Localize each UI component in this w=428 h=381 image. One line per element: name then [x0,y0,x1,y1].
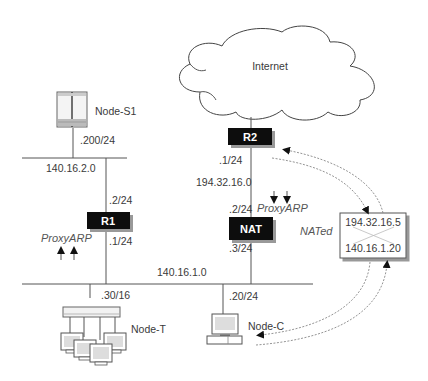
network-diagram: Internet Node-S1 .200/24 140.16.2.0 R2 .… [0,0,428,381]
network-label-194-32-16-0: 194.32.16.0 [196,176,252,188]
nat-lower-interface: .3/24 [229,242,253,254]
network-label-140-16-1-0: 140.16.1.0 [157,266,207,278]
router-nat-label: NAT [240,223,262,235]
r2-interface: .1/24 [219,154,243,166]
node-t-interface: .30/16 [101,289,130,301]
workgroup-icon [61,307,126,365]
internet-label: Internet [252,60,288,72]
nat-external-address: 194.32.16.5 [345,216,401,228]
node-s1-interface: .200/24 [80,134,115,146]
nat-internal-address: 140.16.1.20 [345,242,401,254]
nated-label: NATed [300,225,333,237]
server-icon [57,92,87,127]
r1-upper-interface: .2/24 [109,194,133,206]
nat-proxyarp-label: ProxyARP [257,202,308,214]
router-r1-label: R1 [101,215,115,227]
node-c-label: Node-C [248,320,285,332]
r1-proxyarp-label: ProxyARP [41,232,92,244]
router-r2-label: R2 [243,131,257,143]
node-c-interface: .20/24 [229,290,258,302]
node-t-label: Node-T [131,323,167,335]
workstation-icon [207,314,242,344]
nat-upper-interface: .2/24 [229,203,253,215]
r1-lower-interface: .1/24 [109,235,133,247]
internet-cloud: Internet [179,26,374,120]
network-label-140-16-2-0: 140.16.2.0 [46,162,96,174]
node-s1-label: Node-S1 [95,105,137,117]
